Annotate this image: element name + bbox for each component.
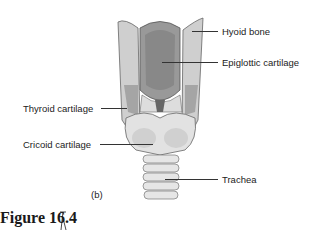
trachea-leader [165,179,218,180]
panel-label: (b) [91,189,103,200]
hyoid-leader [192,31,218,32]
figure-caption: Figure 16.4 [0,209,77,227]
label-hyoid-bone: Hyoid bone [222,26,270,37]
cricoid-leader [100,144,153,145]
larynx-illustration [0,0,322,233]
thyroid-leader [101,108,127,109]
label-trachea: Trachea [222,174,257,185]
label-thyroid-cartilage: Thyroid cartilage [23,103,93,114]
epiglottic-leader [162,62,218,63]
label-cricoid-cartilage: Cricoid cartilage [23,139,91,150]
label-epiglottic-cartilage: Epiglottic cartilage [222,57,299,68]
